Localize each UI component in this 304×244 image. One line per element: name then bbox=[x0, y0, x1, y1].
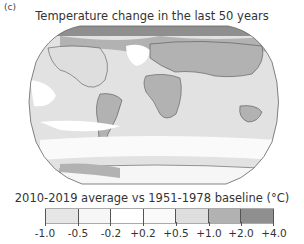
legend-bin-4 bbox=[144, 209, 177, 223]
world-map bbox=[0, 22, 304, 190]
tick-label: -0.2 bbox=[101, 227, 122, 239]
legend-bin-7 bbox=[241, 209, 274, 223]
tick-label: +4.0 bbox=[261, 227, 287, 239]
legend-bin-6 bbox=[209, 209, 242, 223]
chart-title: Temperature change in the last 50 years bbox=[0, 9, 304, 23]
tick-label: -1.0 bbox=[35, 227, 56, 239]
tick-label: -0.5 bbox=[68, 227, 89, 239]
legend-bin-5 bbox=[176, 209, 209, 223]
legend-bin-2 bbox=[79, 209, 112, 223]
tick-label: +1.0 bbox=[196, 227, 222, 239]
legend-bin-3 bbox=[111, 209, 144, 223]
arctic-region bbox=[0, 22, 304, 36]
legend-ticks bbox=[45, 222, 274, 226]
tick-label: +2.0 bbox=[228, 227, 254, 239]
chart-subtitle: 2010-2019 average vs 1951-1978 baseline … bbox=[0, 191, 304, 205]
legend-bin-1 bbox=[45, 209, 79, 223]
tick-label: +0.2 bbox=[130, 227, 156, 239]
legend-tick-labels: -1.0 -0.5 -0.2 +0.2 +0.5 +1.0 +2.0 +4.0 bbox=[0, 227, 304, 241]
tick-label: +0.5 bbox=[163, 227, 189, 239]
